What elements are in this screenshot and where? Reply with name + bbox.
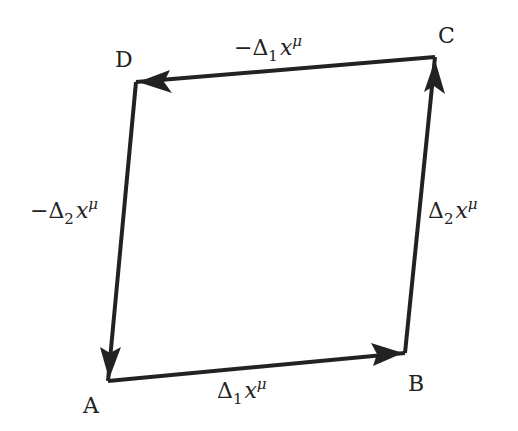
svg-text:Δ2xμ: Δ2xμ	[428, 195, 478, 228]
edge-c-d	[136, 57, 435, 82]
vertex-label-a: A	[82, 393, 100, 418]
vertex-label-c: C	[438, 23, 455, 48]
parallelogram-diagram: A B C D Δ1xμ Δ2xμ −Δ1xμ −Δ2xμ	[0, 0, 518, 431]
edge-label-cd: −Δ1xμ	[234, 32, 302, 65]
vertex-label-d: D	[115, 47, 133, 72]
arrow-head-bc-icon	[424, 60, 445, 94]
edge-d-a	[108, 82, 136, 381]
edge-label-bc: Δ2xμ	[428, 195, 478, 228]
edge-label-ab: Δ1xμ	[217, 375, 267, 408]
svg-text:−Δ1xμ: −Δ1xμ	[234, 32, 302, 65]
vertex-label-b: B	[408, 371, 424, 396]
svg-text:Δ1xμ: Δ1xμ	[217, 375, 267, 408]
arrow-head-cd-icon	[138, 70, 172, 93]
svg-text:−Δ2xμ: −Δ2xμ	[30, 195, 98, 228]
edge-label-da: −Δ2xμ	[30, 195, 98, 228]
